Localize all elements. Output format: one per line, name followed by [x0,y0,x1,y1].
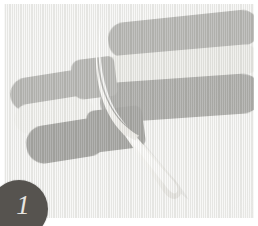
step-number-badge: 1 [0,180,48,226]
fabric-patch-center-bottom [86,105,147,154]
screenshot-root: 1 [0,0,258,226]
fabric-patch-center-top [70,55,119,100]
step-number-label: 1 [0,180,48,226]
